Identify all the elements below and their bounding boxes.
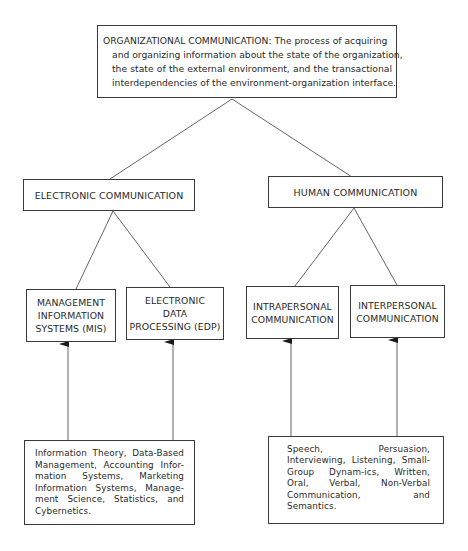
mis-label-line-3: SYSTEMS (MIS) xyxy=(35,322,106,335)
intrapersonal-label-line-1: INTRAPERSONAL xyxy=(251,300,333,313)
interpersonal-label-line-2: COMMUNICATION xyxy=(356,312,438,325)
edp-box: ELECTRONIC DATA PROCESSING (EDP) xyxy=(126,287,224,340)
electronic-branch-lines xyxy=(76,211,170,289)
definition-line-4: interdependencies of the environment-org… xyxy=(103,76,392,90)
mis-box: MANAGEMENT INFORMATION SYSTEMS (MIS) xyxy=(26,289,116,342)
edp-label-line-2: DATA xyxy=(130,307,221,320)
intrapersonal-label-line-2: COMMUNICATION xyxy=(251,313,333,326)
mis-label-line-2: INFORMATION xyxy=(35,309,106,322)
human-foundations-text: Speech, Persuasion, Interviewing, Listen… xyxy=(287,444,430,513)
human-foundations-box: Speech, Persuasion, Interviewing, Listen… xyxy=(268,436,444,524)
organizational-communication-definition: ORGANIZATIONAL COMMUNICATION: The proces… xyxy=(103,34,392,90)
interpersonal-label-line-1: INTERPERSONAL xyxy=(356,299,438,312)
human-communication-box: HUMAN COMMUNICATION xyxy=(268,176,443,208)
root-branch-lines xyxy=(110,99,352,179)
human-branch-lines xyxy=(295,208,397,286)
human-communication-label: HUMAN COMMUNICATION xyxy=(294,187,418,198)
interpersonal-communication-box: INTERPERSONAL COMMUNICATION xyxy=(350,285,445,338)
electronic-communication-box: ELECTRONIC COMMUNICATION xyxy=(23,179,195,211)
definition-line-2: and organizing information about the sta… xyxy=(103,48,392,62)
electronic-communication-label: ELECTRONIC COMMUNICATION xyxy=(35,190,184,201)
organizational-communication-box: ORGANIZATIONAL COMMUNICATION: The proces… xyxy=(97,25,397,98)
definition-line-1: ORGANIZATIONAL COMMUNICATION: The proces… xyxy=(103,34,392,48)
electronic-foundations-text: Information Theory, Data-Based Managemen… xyxy=(35,448,184,517)
edp-label-line-1: ELECTRONIC xyxy=(130,294,221,307)
foundation-arrows xyxy=(68,340,397,440)
edp-label-line-3: PROCESSING (EDP) xyxy=(130,320,221,333)
electronic-foundations-box: Information Theory, Data-Based Managemen… xyxy=(24,440,195,525)
intrapersonal-communication-box: INTRAPERSONAL COMMUNICATION xyxy=(246,286,339,339)
definition-line-3: the state of the external environment, a… xyxy=(103,62,392,76)
mis-label-line-1: MANAGEMENT xyxy=(35,296,106,309)
